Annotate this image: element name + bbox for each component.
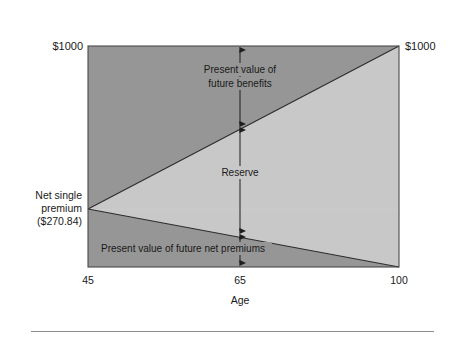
x-tick-label-100: 100 xyxy=(390,274,408,286)
x-tick-label-45: 45 xyxy=(82,274,94,286)
premiums-label: Present value of future net premiums xyxy=(101,243,265,254)
footer-divider xyxy=(31,331,434,332)
benefits-label-line2: future benefits xyxy=(208,78,271,89)
net-single-premium-label-line2: premium xyxy=(41,202,82,214)
top-left-value-label: $1000 xyxy=(52,40,83,52)
x-axis-title: Age xyxy=(231,294,250,306)
insurance-reserve-figure: Present value of future benefits Reserve… xyxy=(0,0,463,344)
benefits-label-line1: Present value of xyxy=(204,64,276,75)
reserve-label: Reserve xyxy=(221,167,259,178)
chart-canvas: Present value of future benefits Reserve… xyxy=(0,0,463,344)
net-single-premium-value: ($270.84) xyxy=(37,215,82,227)
x-tick-label-65: 65 xyxy=(234,274,246,286)
top-right-value-label: $1000 xyxy=(405,40,436,52)
net-single-premium-label-line1: Net single xyxy=(35,189,82,201)
